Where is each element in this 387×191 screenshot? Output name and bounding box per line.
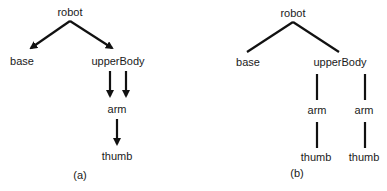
node-arm: arm bbox=[108, 103, 127, 115]
edge-arrow-robot-upperbody bbox=[70, 21, 112, 48]
node-robot: robot bbox=[280, 7, 305, 19]
panel-a: robot base upperBody arm thumb (a) bbox=[10, 6, 145, 181]
node-thumb-1: thumb bbox=[301, 151, 332, 163]
node-thumb-2: thumb bbox=[349, 151, 380, 163]
node-thumb: thumb bbox=[102, 150, 133, 162]
node-arm-1: arm bbox=[308, 104, 327, 116]
node-upperbody: upperBody bbox=[91, 55, 145, 67]
edge-line-robot-base bbox=[247, 22, 293, 52]
caption-b: (b) bbox=[290, 167, 303, 179]
node-base: base bbox=[236, 56, 260, 68]
edge-line-robot-upperbody bbox=[293, 22, 339, 52]
diagram-svg: robot base upperBody arm thumb (a) robot… bbox=[0, 0, 387, 191]
scene-graph-figure: robot base upperBody arm thumb (a) robot… bbox=[0, 0, 387, 191]
node-robot: robot bbox=[57, 6, 82, 18]
node-base: base bbox=[10, 55, 34, 67]
panel-b: robot base upperBody arm arm thumb thumb… bbox=[236, 7, 379, 179]
node-arm-2: arm bbox=[355, 104, 374, 116]
caption-a: (a) bbox=[73, 169, 86, 181]
node-upperbody: upperBody bbox=[313, 56, 367, 68]
edge-arrow-robot-base bbox=[31, 21, 70, 48]
